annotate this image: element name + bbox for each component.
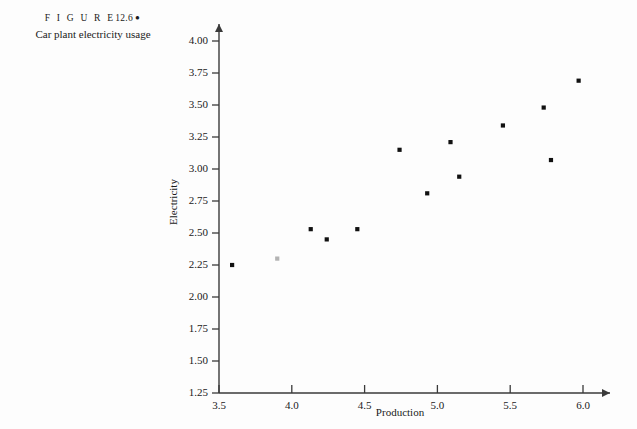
x-tick-label: 5.5 [493,399,527,411]
y-tick-label: 1.75 [170,322,208,334]
data-point [501,123,505,127]
plot-canvas [0,0,637,429]
data-point [397,148,401,152]
axes-group [219,24,610,393]
y-tick-label: 1.50 [170,354,208,366]
x-tick-label: 4.0 [275,399,309,411]
y-tick-label: 3.50 [170,98,208,110]
data-point [448,140,452,144]
x-tick-label: 6.0 [566,399,600,411]
data-points-group [230,79,581,268]
ticks-group [212,41,583,393]
data-point [355,227,359,231]
data-point [309,227,313,231]
data-point [549,158,553,162]
data-point [542,105,546,109]
y-tick-label: 2.25 [170,258,208,270]
scatter-plot: 1.251.501.752.002.252.502.753.003.253.50… [0,0,637,429]
data-point [325,237,329,241]
x-axis-title: Production [340,406,460,418]
figure-container: F I G U R E12.6● Car plant electricity u… [0,0,637,429]
data-point [577,79,581,83]
data-point [275,257,279,261]
y-tick-label: 3.25 [170,130,208,142]
data-point [457,175,461,179]
y-tick-label: 3.75 [170,66,208,78]
y-tick-label: 4.00 [170,34,208,46]
y-tick-label: 1.25 [170,386,208,398]
y-tick-label: 2.00 [170,290,208,302]
y-axis-title: Electricity [167,162,179,242]
data-point [230,263,234,267]
data-point [425,191,429,195]
x-tick-label: 3.5 [202,399,236,411]
